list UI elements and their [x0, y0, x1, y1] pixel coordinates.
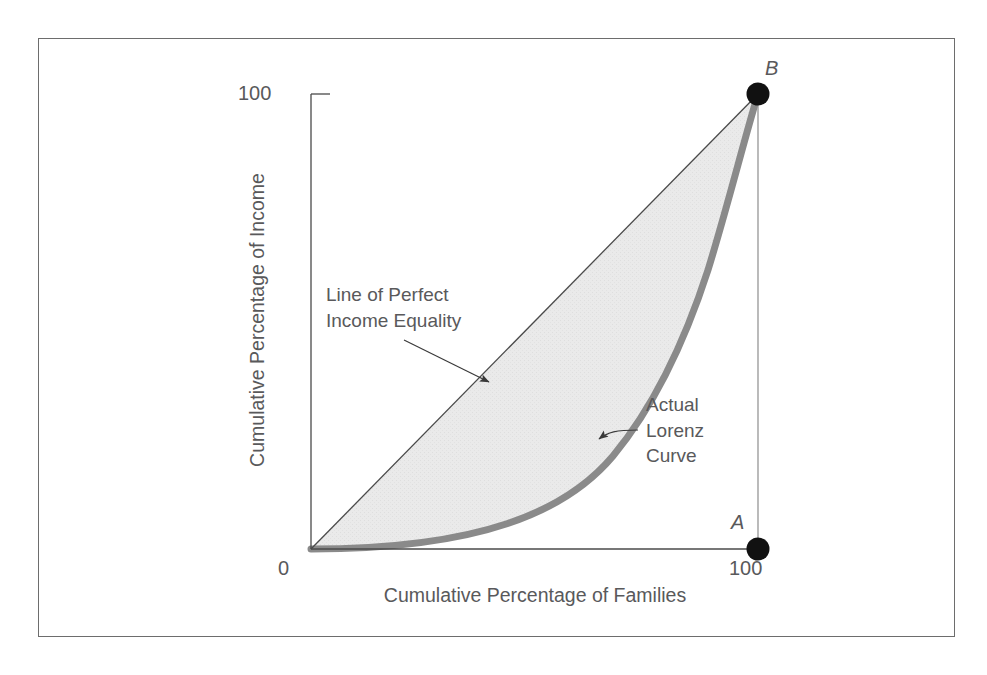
y-axis-tick-label-100: 100 [238, 81, 271, 106]
point-a-label: A [731, 510, 744, 535]
point-b-marker [747, 83, 770, 106]
equality-line-annotation: Line of PerfectIncome Equality [326, 282, 461, 333]
x-axis-label: Cumulative Percentage of Families [315, 583, 755, 608]
y-axis-label: Cumulative Percentage of Income [245, 110, 270, 530]
lorenz-curve-annotation: ActualLorenzCurve [646, 392, 704, 469]
lorenz-curve-figure: Cumulative Percentage of Income Cumulati… [0, 0, 987, 675]
origin-tick-label-0: 0 [278, 556, 289, 581]
lorenz-annotation-line3: Curve [646, 445, 697, 466]
equality-annotation-line2: Income Equality [326, 310, 461, 331]
point-b-label: B [765, 56, 778, 81]
lorenz-annotation-line1: Actual [646, 394, 699, 415]
lorenz-annotation-line2: Lorenz [646, 420, 704, 441]
equality-annotation-arrow [404, 340, 489, 382]
plot-area [0, 0, 987, 675]
equality-annotation-line1: Line of Perfect [326, 284, 449, 305]
x-axis-tick-label-100: 100 [729, 556, 762, 581]
